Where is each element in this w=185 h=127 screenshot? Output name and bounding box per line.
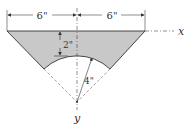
y-axis-label: y [73,112,81,125]
cross-section-diagram: 6" 6" 2" 4" x y [0,0,185,127]
x-axis-label: x [178,25,185,38]
dimension-right-label: 6" [107,10,118,21]
depth-label: 2" [63,40,73,50]
radius-label: 4" [84,76,94,86]
origin-point [76,101,78,103]
dimension-left-label: 6" [37,10,48,21]
shaded-section [7,31,145,69]
extension-line-left [44,69,77,102]
